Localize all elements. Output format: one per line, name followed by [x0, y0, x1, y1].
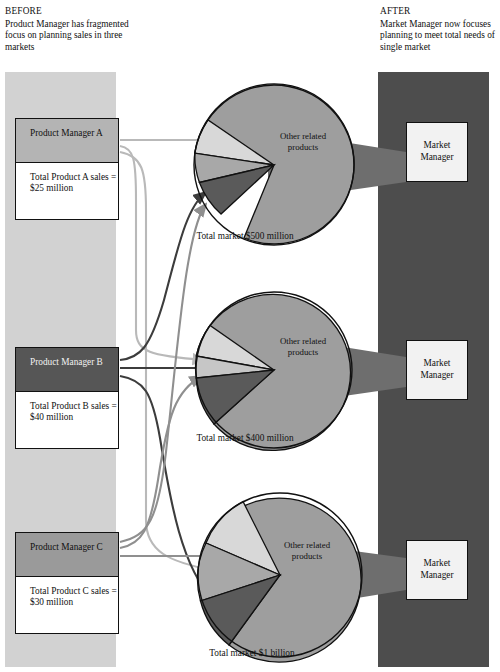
market-manager-label-2: Market Manager	[407, 358, 467, 381]
market-manager-box-2[interactable]: Market Manager	[406, 340, 468, 400]
product-manager-c-box[interactable]: Product Manager C Total Product C sales …	[15, 532, 119, 634]
market-manager-box-1[interactable]: Market Manager	[406, 122, 468, 182]
product-manager-a-title: Product Manager A	[16, 119, 118, 163]
pie-3-caption: Total market $1 billion	[152, 648, 352, 658]
pie-chart-3	[198, 493, 362, 662]
product-manager-b-box[interactable]: Product Manager B Total Product B sales …	[15, 347, 119, 449]
market-manager-box-3[interactable]: Market Manager	[406, 540, 468, 600]
product-manager-c-title: Product Manager C	[16, 533, 118, 577]
product-manager-a-total: Total Product A sales = $25 million	[16, 163, 118, 219]
pie-2-caption: Total market $400 million	[145, 433, 345, 443]
product-manager-a-box[interactable]: Product Manager A Total Product A sales …	[15, 118, 119, 220]
market-manager-label-3: Market Manager	[407, 558, 467, 581]
pie-chart-1	[194, 84, 354, 245]
product-manager-b-title: Product Manager B	[16, 348, 118, 392]
product-manager-b-total: Total Product B sales = $40 million	[16, 392, 118, 448]
pie-1-caption: Total market $500 million	[145, 231, 345, 241]
product-manager-c-total: Total Product C sales = $30 million	[16, 577, 118, 633]
pie-chart-2	[196, 292, 352, 450]
market-manager-label-1: Market Manager	[407, 140, 467, 163]
